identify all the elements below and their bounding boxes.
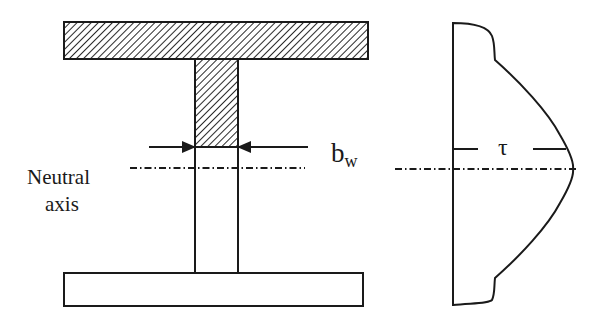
cross-section bbox=[64, 22, 368, 306]
shear-stress-label: τ bbox=[498, 134, 508, 160]
shear-stress-profile: τ bbox=[453, 23, 573, 305]
top-flange bbox=[64, 22, 368, 59]
shear-stress-diagram: bw Neutral axis τ bbox=[0, 0, 600, 325]
web-width-subscript: w bbox=[345, 151, 358, 171]
web-compression-zone bbox=[195, 59, 238, 147]
stress-distribution-curve bbox=[453, 23, 573, 305]
web-tension-zone bbox=[195, 147, 238, 273]
bottom-flange bbox=[64, 273, 363, 306]
neutral-axis-label: Neutral axis bbox=[27, 165, 95, 216]
web-width-dimension: bw bbox=[149, 138, 358, 171]
web-width-label: bw bbox=[331, 138, 358, 171]
